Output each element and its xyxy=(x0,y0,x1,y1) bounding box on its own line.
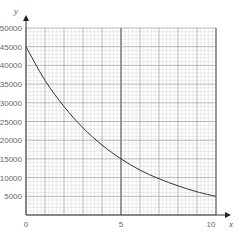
y-tick-label: 35000 xyxy=(0,80,23,89)
y-tick-label: 10000 xyxy=(0,174,23,183)
y-tick-label: 45000 xyxy=(0,43,23,52)
y-tick-labels: 5000100001500020000250003000035000400004… xyxy=(0,24,23,201)
y-axis-arrow-icon xyxy=(23,15,29,21)
y-tick-label: 25000 xyxy=(0,118,23,127)
major-grid xyxy=(26,28,216,215)
y-tick-label: 20000 xyxy=(0,136,23,145)
y-tick-label: 5000 xyxy=(4,192,22,201)
axes xyxy=(23,15,231,218)
y-tick-label: 30000 xyxy=(0,99,23,108)
y-tick-label: 15000 xyxy=(0,155,23,164)
x-tick-10: 10 xyxy=(207,220,216,229)
x-tick-0: 0 xyxy=(24,220,29,229)
line-chart: 5000100001500020000250003000035000400004… xyxy=(0,0,239,237)
y-tick-label: 50000 xyxy=(0,24,23,33)
x-axis-label: x xyxy=(228,219,233,229)
y-axis-label: y xyxy=(13,6,18,16)
x-axis-arrow-icon xyxy=(225,212,231,218)
x-tick-5: 5 xyxy=(119,220,124,229)
y-tick-label: 40000 xyxy=(0,61,23,70)
